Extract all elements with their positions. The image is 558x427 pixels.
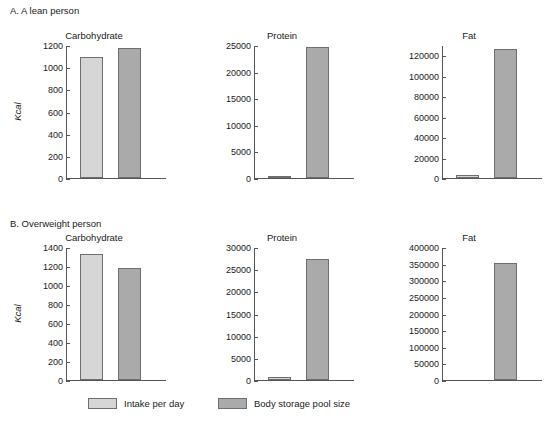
figure-root: { "figure": { "panels": [ { "id": "A", "… <box>0 0 558 427</box>
y-axis-tick-label: 200000 <box>409 310 439 319</box>
y-axis-tick-label: 100000 <box>409 343 439 352</box>
y-axis-tick-label: 0 <box>434 175 439 184</box>
bar-intake-per-day <box>268 176 291 178</box>
y-axis-tick: 200000 <box>442 315 446 316</box>
y-axis-tick-label: 200 <box>48 152 63 161</box>
y-axis-tick-label: 800 <box>48 86 63 95</box>
y-axis-tick: 1400 <box>66 248 70 249</box>
y-axis-tick: 200 <box>66 157 70 158</box>
plot-area: 0200400600800100012001400 <box>66 248 146 381</box>
y-axis-tick-label: 1400 <box>43 244 63 253</box>
x-axis-line <box>66 380 166 381</box>
chart-title: Fat <box>380 232 558 243</box>
y-axis-tick: 0 <box>442 179 446 180</box>
y-axis-tick-label: 600 <box>48 108 63 117</box>
y-axis-tick: 25000 <box>254 46 258 47</box>
y-axis-tick-label: 400000 <box>409 244 439 253</box>
bar-body-storage-pool-size <box>306 259 329 380</box>
y-axis-tick-label: 5000 <box>231 354 251 363</box>
y-axis-tick: 250000 <box>442 298 446 299</box>
y-axis-tick-label: 10000 <box>226 332 251 341</box>
y-axis-tick: 150000 <box>442 331 446 332</box>
y-axis-tick: 1000 <box>66 286 70 287</box>
legend-item-intake: Intake per day <box>88 398 184 409</box>
y-axis-tick: 400 <box>66 135 70 136</box>
y-axis-tick-label: 40000 <box>414 134 439 143</box>
bar-body-storage-pool-size <box>118 268 141 380</box>
y-axis-tick: 0 <box>254 381 258 382</box>
y-axis-tick-label: 1000 <box>43 282 63 291</box>
y-axis-tick: 0 <box>66 381 70 382</box>
y-axis-line <box>254 46 255 179</box>
y-axis-tick-label: 400 <box>48 130 63 139</box>
y-axis-tick-label: 120000 <box>409 52 439 61</box>
y-axis-tick-label: 60000 <box>414 113 439 122</box>
y-axis-tick: 60000 <box>442 118 446 119</box>
y-axis-tick-label: 0 <box>58 377 63 386</box>
y-axis-tick: 800 <box>66 305 70 306</box>
bar-body-storage-pool-size <box>494 49 517 178</box>
y-axis-tick: 120000 <box>442 56 446 57</box>
y-axis-tick-label: 50000 <box>414 360 439 369</box>
y-axis-tick-label: 150000 <box>409 327 439 336</box>
x-axis-line <box>66 178 166 179</box>
y-axis-tick: 0 <box>442 381 446 382</box>
plot-area: 050001000015000200002500030000 <box>254 248 334 381</box>
y-axis-tick: 30000 <box>254 248 258 249</box>
y-axis-tick: 600 <box>66 324 70 325</box>
bar-intake-per-day <box>456 175 479 178</box>
y-axis-tick-label: 5000 <box>231 148 251 157</box>
y-axis-tick: 1200 <box>66 267 70 268</box>
y-axis-tick-label: 20000 <box>226 68 251 77</box>
y-axis-tick: 100000 <box>442 348 446 349</box>
y-axis-tick: 15000 <box>254 99 258 100</box>
y-axis-tick-label: 0 <box>434 377 439 386</box>
y-axis-tick-label: 1200 <box>43 42 63 51</box>
y-axis-label: Kcal <box>12 298 23 328</box>
legend-item-storage: Body storage pool size <box>218 398 350 409</box>
y-axis-tick: 100000 <box>442 77 446 78</box>
y-axis-tick-label: 80000 <box>414 93 439 102</box>
legend-swatch-intake-icon <box>88 398 117 409</box>
x-axis-line <box>442 178 542 179</box>
y-axis-tick-label: 100000 <box>409 72 439 81</box>
y-axis-tick: 1200 <box>66 46 70 47</box>
chart-title: Fat <box>380 30 558 41</box>
x-axis-line <box>442 380 542 381</box>
x-axis-line <box>254 178 354 179</box>
y-axis-tick: 80000 <box>442 97 446 98</box>
y-axis-tick: 350000 <box>442 265 446 266</box>
y-axis-tick: 200 <box>66 362 70 363</box>
chart-title: Protein <box>192 232 372 243</box>
y-axis-tick: 50000 <box>442 364 446 365</box>
y-axis-tick-label: 20000 <box>414 154 439 163</box>
y-axis-tick: 400 <box>66 343 70 344</box>
bar-intake-per-day <box>80 57 103 178</box>
x-axis-line <box>254 380 354 381</box>
y-axis-tick-label: 1200 <box>43 263 63 272</box>
y-axis-tick: 400000 <box>442 248 446 249</box>
y-axis-tick-label: 800 <box>48 301 63 310</box>
y-axis-tick-label: 20000 <box>226 288 251 297</box>
y-axis-tick: 1000 <box>66 68 70 69</box>
y-axis-tick-label: 30000 <box>226 244 251 253</box>
y-axis-tick-label: 0 <box>246 175 251 184</box>
plot-area: 020040060080010001200 <box>66 46 146 179</box>
y-axis-tick: 800 <box>66 90 70 91</box>
y-axis-tick: 0 <box>66 179 70 180</box>
y-axis-tick: 40000 <box>442 138 446 139</box>
y-axis-tick: 0 <box>254 179 258 180</box>
y-axis-tick-label: 15000 <box>226 95 251 104</box>
legend-label-intake: Intake per day <box>124 398 184 409</box>
y-axis-tick-label: 200 <box>48 358 63 367</box>
y-axis-tick-label: 600 <box>48 320 63 329</box>
y-axis-tick: 10000 <box>254 126 258 127</box>
plot-area: 0500010000150002000025000 <box>254 46 334 179</box>
y-axis-tick: 20000 <box>442 159 446 160</box>
y-axis-tick: 10000 <box>254 337 258 338</box>
bar-body-storage-pool-size <box>494 263 517 380</box>
y-axis-tick-label: 400 <box>48 339 63 348</box>
y-axis-tick-label: 15000 <box>226 310 251 319</box>
y-axis-tick: 15000 <box>254 315 258 316</box>
legend-swatch-storage-icon <box>218 398 247 409</box>
